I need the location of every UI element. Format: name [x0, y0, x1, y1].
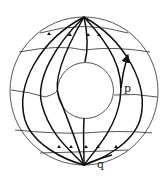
label-q: q [97, 158, 104, 171]
label-p: p [124, 82, 131, 95]
inner-hole-circle [58, 63, 114, 119]
annulus-flow-diagram: p q [0, 0, 167, 180]
